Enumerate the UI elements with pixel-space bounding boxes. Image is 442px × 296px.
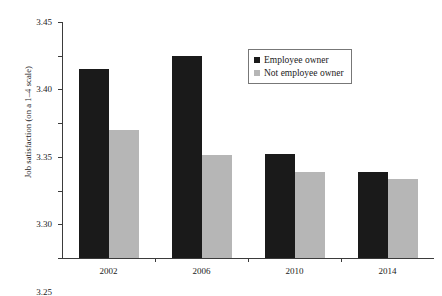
y-tick-label: 3.45 [36, 17, 52, 27]
x-tick-mark [155, 258, 156, 262]
x-tick-mark [248, 258, 249, 262]
x-tick-label: 2006 [193, 266, 211, 276]
y-tick-mark: 3.10 [58, 258, 62, 259]
y-tick-mark: 3.35 [58, 89, 62, 90]
legend-item: Employee owner [254, 53, 344, 66]
x-tick-mark [341, 258, 342, 262]
y-tick-mark: 3.45 [58, 22, 62, 23]
y-tick-mark: 3.15 [58, 224, 62, 225]
y-tick-label: 3.30 [36, 219, 52, 229]
bar-chart-figure: Job satisfaction (on a 1–4 scale) 3.103.… [0, 0, 442, 296]
bar [202, 155, 232, 258]
y-tick-label: 3.25 [36, 287, 52, 296]
y-tick-mark: 3.30 [58, 123, 62, 124]
y-tick-label: 3.40 [36, 84, 52, 94]
legend-swatch-icon [254, 70, 260, 76]
legend-item: Not employee owner [254, 66, 344, 79]
x-tick-label: 2002 [100, 266, 118, 276]
bar [265, 154, 295, 258]
x-tick-label: 2010 [286, 266, 304, 276]
y-tick-mark: 3.20 [58, 191, 62, 192]
y-tick-mark: 3.25 [58, 157, 62, 158]
y-axis-line [62, 22, 63, 258]
legend-swatch-icon [254, 57, 260, 63]
chart-legend: Employee ownerNot employee owner [248, 49, 352, 84]
bar [172, 56, 202, 258]
legend-label: Not employee owner [264, 68, 344, 78]
bar [358, 172, 388, 258]
y-axis-title: Job satisfaction (on a 1–4 scale) [23, 7, 33, 237]
bar [388, 179, 418, 258]
legend-label: Employee owner [264, 55, 329, 65]
x-tick-label: 2014 [379, 266, 397, 276]
bar [109, 130, 139, 258]
y-tick-mark: 3.40 [58, 56, 62, 57]
bar [79, 69, 109, 258]
bar [295, 172, 325, 258]
y-tick-label: 3.35 [36, 152, 52, 162]
